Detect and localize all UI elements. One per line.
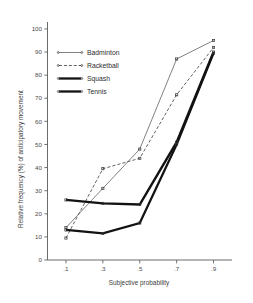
y-tick-label: 70 xyxy=(35,94,42,101)
x-tick-label: .7 xyxy=(174,265,180,272)
chart-figure: 0102030405060708090100 .1.3.5.7.9 Subjec… xyxy=(0,0,253,303)
legend-endcap-right-badminton xyxy=(81,52,83,54)
legend-endcap-right-tennis xyxy=(81,91,83,93)
legend-label-squash: Squash xyxy=(87,75,110,83)
legend-item-tennis: Tennis xyxy=(57,88,107,95)
y-tick-label: 20 xyxy=(35,210,42,217)
x-tick-label: .5 xyxy=(137,265,143,272)
x-tick-label: .9 xyxy=(211,265,217,272)
y-axis-tick-labels: 0102030405060708090100 xyxy=(32,25,43,263)
legend-endcap-right-squash xyxy=(81,78,83,80)
legend-item-squash: Squash xyxy=(57,75,110,83)
legend-label-badminton: Badminton xyxy=(87,49,120,56)
y-tick-label: 0 xyxy=(39,256,43,263)
x-axis-title: Subjective probability xyxy=(109,279,170,287)
y-tick-label: 40 xyxy=(35,164,42,171)
y-axis-title: Relative frequency (%) of anticipatory m… xyxy=(17,90,25,228)
x-axis-tick-labels: .1.3.5.7.9 xyxy=(63,265,216,272)
data-point-marker xyxy=(212,39,214,41)
y-tick-label: 30 xyxy=(35,187,42,194)
y-tick-label: 90 xyxy=(35,48,42,55)
y-tick-label: 60 xyxy=(35,118,42,125)
y-tick-label: 80 xyxy=(35,71,42,78)
x-tick-label: .3 xyxy=(100,265,106,272)
data-point-marker xyxy=(212,46,214,48)
legend-endcap-left-badminton xyxy=(57,52,59,54)
x-tick-label: .1 xyxy=(63,265,69,272)
y-tick-label: 100 xyxy=(32,25,43,32)
data-point-marker xyxy=(65,227,67,229)
legend-item-racketball: Racketball xyxy=(57,62,119,69)
chart-legend: Badminton Racketball Squash Tennis xyxy=(57,49,119,95)
x-axis-ticks xyxy=(66,260,214,263)
line-chart: 0102030405060708090100 .1.3.5.7.9 Subjec… xyxy=(0,0,253,303)
y-tick-label: 50 xyxy=(35,141,42,148)
legend-label-racketball: Racketball xyxy=(87,62,119,69)
legend-label-tennis: Tennis xyxy=(87,88,107,95)
legend-endcap-left-squash xyxy=(57,78,59,80)
series-data-point-markers xyxy=(65,39,215,239)
legend-endcap-left-racketball xyxy=(57,65,59,67)
legend-item-badminton: Badminton xyxy=(57,49,119,56)
y-tick-label: 10 xyxy=(35,233,42,240)
y-axis-ticks xyxy=(44,29,47,260)
legend-endcap-left-tennis xyxy=(57,91,59,93)
legend-endcap-right-racketball xyxy=(81,65,83,67)
